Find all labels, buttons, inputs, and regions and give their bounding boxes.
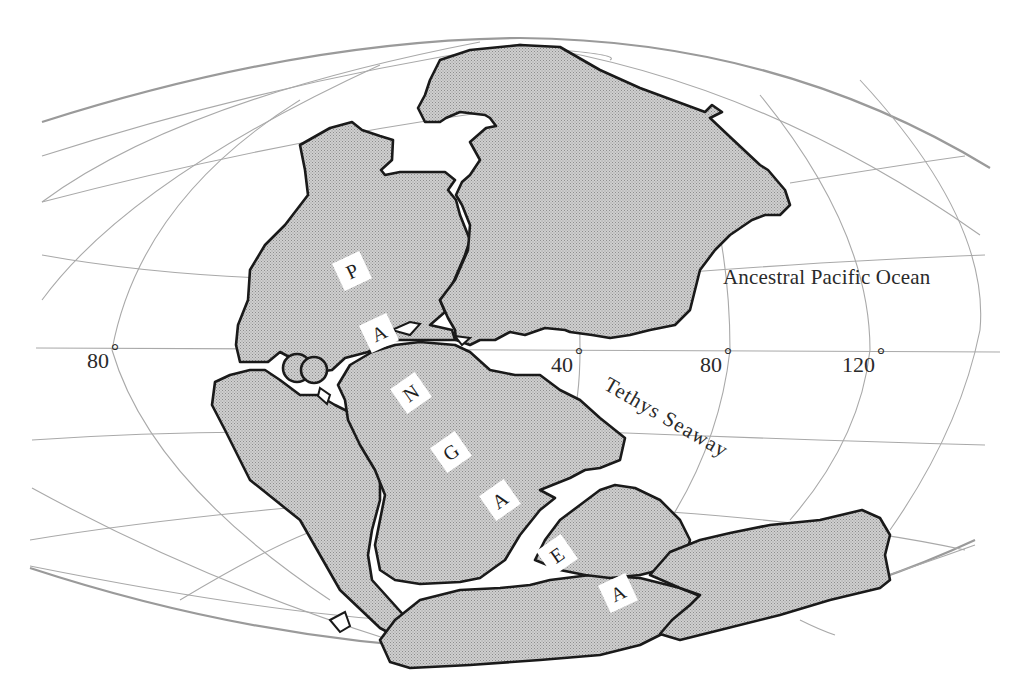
landmass-antarctica — [380, 575, 705, 668]
longitude-value: 80 — [700, 352, 722, 377]
landmass-laurentia — [236, 122, 470, 372]
longitude-label-80-west: 80° — [87, 340, 119, 374]
ocean-label-ancestral-pacific: Ancestral Pacific Ocean — [723, 265, 931, 290]
longitude-label-120: 120° — [842, 344, 885, 378]
pangaea-map: Ancestral Pacific Ocean Tethys Seaway 80… — [0, 0, 1031, 691]
longitude-value: 120 — [842, 352, 875, 377]
landmass-islet-2 — [301, 357, 327, 383]
longitude-value: 40 — [551, 352, 573, 377]
longitude-value: 80 — [87, 348, 109, 373]
degree-symbol: ° — [111, 340, 119, 362]
degree-symbol: ° — [724, 344, 732, 366]
longitude-label-40: 40° — [551, 344, 583, 378]
degree-symbol: ° — [575, 344, 583, 366]
landmass-eurasia — [418, 45, 790, 345]
longitude-label-80-east: 80° — [700, 344, 732, 378]
degree-symbol: ° — [877, 344, 885, 366]
